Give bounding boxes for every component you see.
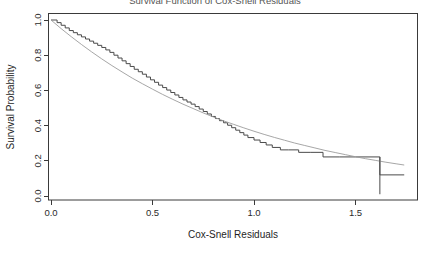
reference-survival-curve bbox=[51, 20, 404, 165]
x-axis-ticks: 0.00.51.01.5 bbox=[44, 200, 362, 218]
y-tick-label: 0.2 bbox=[32, 154, 43, 167]
y-tick-label: 0.6 bbox=[32, 84, 43, 97]
chart-canvas: Survival Function of Cox-Snell Residuals… bbox=[0, 0, 430, 253]
plot-frame bbox=[49, 14, 418, 201]
y-axis-ticks: 0.00.20.40.60.81.0 bbox=[32, 13, 48, 202]
x-tick-label: 1.0 bbox=[247, 207, 260, 218]
chart-series-layer bbox=[51, 20, 404, 175]
km-step-curve bbox=[51, 20, 404, 175]
x-axis-label: Cox-Snell Residuals bbox=[188, 229, 278, 240]
y-tick-label: 0.4 bbox=[32, 119, 43, 132]
y-tick-label: 1.0 bbox=[32, 13, 43, 26]
y-axis-label: Survival Probability bbox=[5, 64, 16, 149]
y-tick-label: 0.8 bbox=[32, 49, 43, 62]
plot-title: Survival Function of Cox-Snell Residuals bbox=[129, 0, 301, 6]
y-tick-label: 0.0 bbox=[32, 189, 43, 202]
x-tick-label: 1.5 bbox=[349, 207, 362, 218]
x-tick-label: 0.5 bbox=[146, 207, 159, 218]
cox-snell-survival-plot: Survival Function of Cox-Snell Residuals… bbox=[0, 0, 430, 253]
x-tick-label: 0.0 bbox=[44, 207, 57, 218]
